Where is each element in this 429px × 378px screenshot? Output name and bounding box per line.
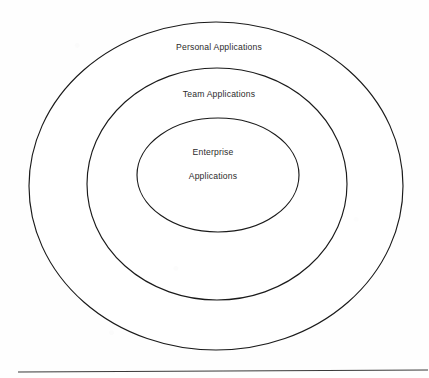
ring-label-enterprise-applications-line2: Applications [189,171,238,181]
ring-label-enterprise: Enterprise [193,147,234,157]
page-baseline-rule [18,370,428,372]
concentric-ellipse-diagram: Personal Applications Team Applications … [0,0,429,378]
ring-label-team-applications: Team Applications [183,89,255,99]
diagram-canvas: Personal Applications Team Applications … [0,0,429,378]
ring-label-personal-applications: Personal Applications [176,42,262,52]
